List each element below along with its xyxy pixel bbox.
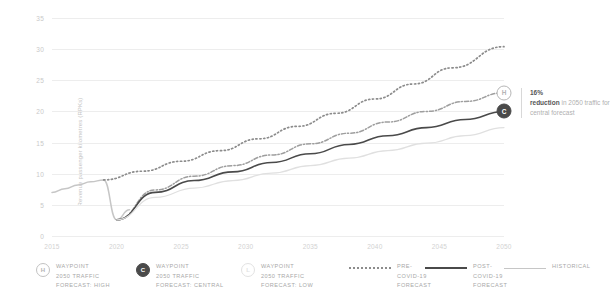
series-line [52,180,129,220]
endpoint-marker-h: H [497,85,512,100]
y-axis-tick-label: 25 [36,77,44,84]
legend-item-label: POST-COVID-19 FORECAST [473,262,507,291]
legend-item-label: WAYPOINT 2050 TRAFFIC FORECAST: LOW [261,262,313,291]
legend-swatch-line [425,267,467,269]
y-axis-tick-label: 30 [36,46,44,53]
legend-item[interactable]: CWAYPOINT 2050 TRAFFIC FORECAST: CENTRAL [136,262,241,291]
series-lines [52,18,504,236]
legend-swatch-line [504,268,546,269]
y-axis-tick-label: 0 [40,233,44,240]
x-axis-tick-label: 2015 [44,243,59,250]
legend-badge-c: C [136,263,150,277]
legend-item[interactable]: POST-COVID-19 FORECAST [425,262,504,291]
x-axis-tick-label: 2040 [367,243,382,250]
legend-item-label: HISTORICAL [552,262,590,272]
legend-item[interactable]: PRE-COVID-19 FORECAST [349,262,425,291]
legend-item-label: WAYPOINT 2050 TRAFFIC FORECAST: HIGH [56,262,110,291]
endpoint-marker-c: C [497,104,512,119]
x-axis-tick-label: 2020 [109,243,124,250]
y-axis-tick-label: 5 [40,201,44,208]
annotation-bold: reduction [530,99,560,106]
legend-badge-h: H [36,263,50,277]
x-axis-tick-label: 2035 [303,243,318,250]
annotation-percent: 16% [530,89,543,96]
legend-swatch-historical [504,262,546,274]
legend-swatch-solid [425,262,467,274]
y-axis-tick-label: 20 [36,108,44,115]
legend-swatch-line [349,267,391,269]
legend-item[interactable]: HWAYPOINT 2050 TRAFFIC FORECAST: HIGH [36,262,136,291]
x-axis-tick-label: 2030 [238,243,253,250]
chart-legend: HWAYPOINT 2050 TRAFFIC FORECAST: HIGHCWA… [36,262,596,291]
gridline [52,236,504,237]
series-line [117,93,504,220]
y-axis-tick-label: 10 [36,170,44,177]
y-axis-tick-label: 15 [36,139,44,146]
x-axis-tick-label: 2045 [432,243,447,250]
plot-area: 35302520151050 2015202020252030203520402… [52,18,504,236]
legend-badge-l: L [241,263,255,277]
y-axis-tick-label: 35 [36,15,44,22]
annotation-callout: 16% reduction in 2050 traffic for centra… [521,88,610,118]
legend-swatch-dotted [349,262,391,274]
legend-item[interactable]: HISTORICAL [504,262,574,274]
series-line [104,47,504,180]
x-axis-tick-label: 2050 [496,243,511,250]
legend-item-label: WAYPOINT 2050 TRAFFIC FORECAST: CENTRAL [156,262,224,291]
legend-item[interactable]: LWAYPOINT 2050 TRAFFIC FORECAST: LOW [241,262,349,291]
x-axis-tick-label: 2025 [174,243,189,250]
series-line [117,128,504,220]
